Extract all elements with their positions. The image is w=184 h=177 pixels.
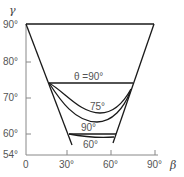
x-tick-label-60: 60° xyxy=(103,159,118,170)
y-tick-label-90: 90° xyxy=(3,19,18,30)
x-tick-label-30: 30° xyxy=(59,159,74,170)
y-tick-label-80: 80° xyxy=(3,56,18,67)
theta-90-label: θ =90° xyxy=(74,71,103,82)
y-tick-label-70: 70° xyxy=(3,92,18,103)
y-tick-label-60: 60° xyxy=(3,128,18,139)
x-tick-label-0: 0 xyxy=(23,159,29,170)
diagram: γ 90° 80° 70° 60° 54° 0 30° 60° 90° β θ … xyxy=(0,0,184,177)
x-tick-label-90: 90° xyxy=(147,159,162,170)
curve-75-label: 75° xyxy=(90,101,105,112)
x-axis-label: β xyxy=(169,159,176,172)
curve-60-label: 60° xyxy=(83,139,98,150)
curve-90-label: 90° xyxy=(81,122,96,133)
left-boundary xyxy=(26,24,72,145)
y-axis-label: γ xyxy=(9,4,16,17)
y-tick-label-54: 54° xyxy=(3,149,18,160)
